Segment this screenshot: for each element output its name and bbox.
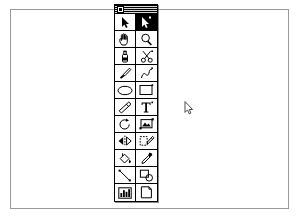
tool-ellipse[interactable]: Ellipse bbox=[115, 82, 136, 99]
tool-arrow-pointer[interactable]: Selection Arrow bbox=[115, 14, 136, 31]
tool-grid[interactable]: Selection Arrow Direct Select Hand bbox=[115, 14, 157, 201]
line-icon bbox=[118, 169, 132, 182]
eyedropper-icon bbox=[140, 152, 154, 165]
tool-scissors[interactable]: Scissors bbox=[136, 48, 157, 65]
scissors-icon bbox=[140, 50, 154, 63]
app-window: Tools Selection Arrow Direct Select bbox=[0, 0, 300, 224]
tool-shapes[interactable]: Shapes bbox=[136, 167, 157, 184]
shapes-icon bbox=[139, 169, 154, 182]
page-icon bbox=[140, 186, 153, 199]
tool-hand[interactable]: Hand bbox=[115, 31, 136, 48]
rectangle-icon bbox=[139, 84, 154, 96]
edit-shape-icon bbox=[139, 135, 155, 147]
tool-palette[interactable]: Tools Selection Arrow Direct Select bbox=[114, 4, 158, 202]
tool-mirror-flip[interactable]: Flip bbox=[115, 133, 136, 150]
rotate-icon bbox=[118, 118, 132, 131]
tool-spray-can[interactable]: Airbrush bbox=[115, 48, 136, 65]
paint-bucket-icon bbox=[118, 152, 132, 165]
spray-can-icon bbox=[119, 50, 131, 63]
hand-icon bbox=[118, 33, 132, 46]
magnifier-icon bbox=[140, 33, 154, 46]
tool-text[interactable]: Text bbox=[136, 99, 157, 116]
tool-arrow-select[interactable]: Direct Select bbox=[136, 14, 157, 31]
tool-line[interactable]: Line bbox=[115, 167, 136, 184]
crop-image-icon bbox=[139, 118, 155, 130]
tool-bar-chart[interactable]: Chart bbox=[115, 184, 136, 201]
close-icon[interactable] bbox=[117, 6, 124, 13]
tool-eyedropper[interactable]: Eyedropper bbox=[136, 150, 157, 167]
tool-paintbrush[interactable]: Paintbrush bbox=[115, 65, 136, 82]
ellipse-icon bbox=[117, 85, 133, 96]
tool-crop-image[interactable]: Crop bbox=[136, 116, 157, 133]
tool-rotate[interactable]: Rotate bbox=[115, 116, 136, 133]
tool-page[interactable]: Page bbox=[136, 184, 157, 201]
tool-eraser[interactable]: Eraser bbox=[115, 99, 136, 116]
arrow-select-icon bbox=[139, 16, 154, 29]
palette-titlebar[interactable]: Tools bbox=[115, 5, 157, 14]
tool-edit-shape[interactable]: Edit Shape bbox=[136, 133, 157, 150]
mirror-flip-icon bbox=[117, 135, 133, 147]
text-icon bbox=[140, 101, 154, 114]
eraser-icon bbox=[118, 101, 132, 114]
curve-icon bbox=[140, 67, 154, 80]
bar-chart-icon bbox=[118, 187, 132, 199]
arrow-pointer-icon bbox=[119, 16, 132, 29]
tool-rectangle[interactable]: Rectangle bbox=[136, 82, 157, 99]
tool-curve[interactable]: Freehand Curve bbox=[136, 65, 157, 82]
tool-paint-bucket[interactable]: Paint Bucket bbox=[115, 150, 136, 167]
tool-magnifier[interactable]: Zoom bbox=[136, 31, 157, 48]
paintbrush-icon bbox=[118, 67, 132, 80]
